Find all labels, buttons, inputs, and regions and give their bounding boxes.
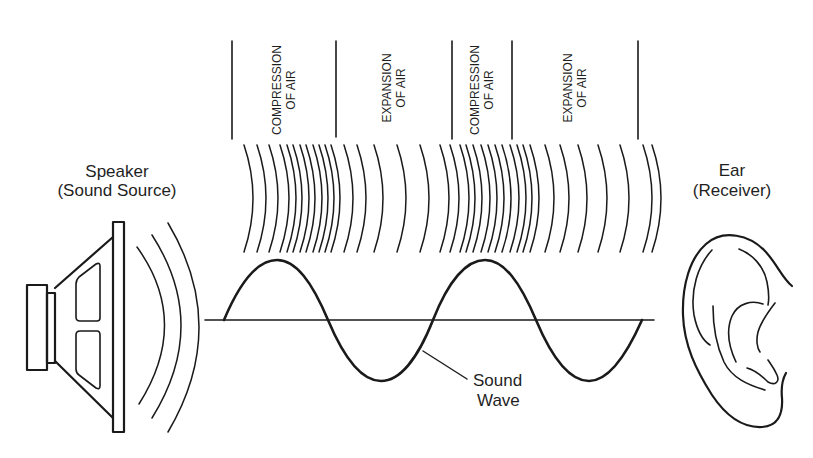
ear-icon <box>683 235 792 427</box>
speaker-emit-arc-3 <box>168 223 199 432</box>
region-label-line2: OF AIR <box>394 68 408 108</box>
wavefront-arc <box>319 145 328 252</box>
wavefront-arc <box>293 145 302 252</box>
wavefront-arc <box>306 145 315 252</box>
wavefront-arc <box>331 145 340 252</box>
wavefront-arc <box>244 145 253 252</box>
wavefront-arc <box>280 145 289 252</box>
region-label-line1: COMPRESSION <box>468 45 482 135</box>
region-label-expansion-2: EXPANSION OF AIR <box>561 53 589 122</box>
wavefront-arc <box>357 145 366 252</box>
region-label-line2: OF AIR <box>482 70 496 110</box>
wavefront-arc <box>652 145 661 252</box>
region-label-expansion-1: EXPANSION OF AIR <box>380 53 408 122</box>
wavefront-arc <box>269 145 278 252</box>
wavefront-arc <box>374 145 383 252</box>
region-label-line1: COMPRESSION <box>270 45 284 135</box>
wavefront-arc <box>578 145 587 252</box>
sound-wave: Sound Wave <box>205 260 654 410</box>
speaker-label-line1: Speaker <box>85 162 149 181</box>
wavefront-arc <box>598 145 607 252</box>
region-label-compression-2: COMPRESSION OF AIR <box>468 45 496 135</box>
wavefront-arc <box>397 145 406 252</box>
wavefront-arc <box>420 145 429 252</box>
region-label-line2: OF AIR <box>284 70 298 110</box>
wavefront-arc <box>257 145 266 252</box>
region-label-line1: EXPANSION <box>561 53 575 122</box>
wavefront-arc <box>466 145 475 252</box>
ear-label-line2: (Receiver) <box>693 181 771 200</box>
region-label-line2: OF AIR <box>575 68 589 108</box>
ear-label-line1: Ear <box>719 161 746 180</box>
speaker-emit-arc-1 <box>137 247 165 404</box>
wave-label-line1: Sound <box>473 371 522 390</box>
wave-label-line2: Wave <box>477 391 520 410</box>
speaker-emit-arc-2 <box>152 235 181 418</box>
speaker-icon <box>27 222 199 432</box>
wavefront-arc <box>560 145 569 252</box>
region-label-compression-1: COMPRESSION OF AIR <box>270 45 298 135</box>
sound-wave-diagram: COMPRESSION OF AIR EXPANSION OF AIR COMP… <box>0 0 813 458</box>
wavefront-arc <box>523 145 532 252</box>
wavefront-arc <box>440 145 449 252</box>
wavefront-arc <box>325 145 334 252</box>
wavefront-arc <box>450 145 459 252</box>
wavefront-arc <box>545 145 554 252</box>
wavefront-arc <box>344 145 353 252</box>
wavefront-arc <box>460 145 469 252</box>
pressure-wavefronts <box>244 145 661 252</box>
wavefront-arc <box>620 145 629 252</box>
wave-leader-line <box>423 351 467 379</box>
region-label-line1: EXPANSION <box>380 53 394 122</box>
speaker-label-line2: (Sound Source) <box>57 181 176 200</box>
wavefront-arc <box>643 145 652 252</box>
